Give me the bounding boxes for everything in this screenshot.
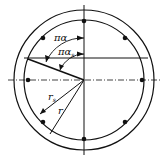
label-r-s: rs [48, 91, 56, 103]
bar-dot [140, 78, 145, 83]
arrowhead [40, 108, 46, 114]
radius-r-line [50, 80, 84, 134]
bar-dot [82, 19, 87, 24]
bar-dot [123, 120, 128, 125]
label-pi-alpha: πα [53, 32, 68, 43]
bar-dot [26, 78, 31, 83]
arrowhead [77, 52, 84, 57]
label-r: r [58, 105, 64, 116]
bar-dot [123, 36, 128, 41]
bar-dot [41, 36, 46, 41]
bar-dot [41, 120, 46, 125]
angle-ray [28, 59, 84, 80]
cross-section-diagram: πα παs rs r [0, 0, 164, 159]
label-pi-alpha-s: παs [57, 46, 74, 58]
bar-dot [82, 137, 87, 142]
arrowhead [77, 36, 84, 41]
